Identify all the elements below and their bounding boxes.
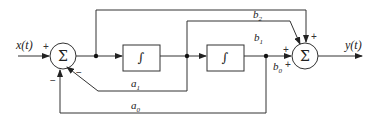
junction-node-1 (94, 54, 98, 58)
sum2-plus-sign-b0: + (285, 59, 291, 70)
sum1-plus-sign: + (43, 41, 49, 52)
sum1-minus-sign-a0: − (50, 75, 56, 86)
summer-1-sigma: Σ (58, 48, 68, 64)
input-label: x(t) (15, 38, 33, 52)
output-label: y(t) (344, 38, 362, 52)
sum2-plus-sign-b1: + (283, 44, 289, 55)
gain-a1-label: a1 (131, 77, 140, 92)
summer-2-sigma: Σ (300, 48, 310, 64)
b2-path (96, 10, 306, 56)
integrator-1-symbol: ∫ (138, 50, 145, 65)
sum2-plus-sign-b2: + (311, 31, 317, 42)
integrator-2-symbol: ∫ (222, 50, 229, 65)
sum1-minus-sign-a1: − (76, 67, 82, 78)
block-diagram: Σ Σ ∫ ∫ x(t) y(t) b2 b1 b0 a1 a0 + − − +… (0, 0, 373, 124)
junction-node-2 (185, 54, 189, 58)
junction-node-3 (264, 54, 268, 58)
gain-b1-label: b1 (254, 31, 263, 46)
a1-feedback-path (67, 56, 187, 91)
gain-b0-label: b0 (273, 60, 283, 75)
gain-a0-label: a0 (131, 99, 141, 114)
a0-feedback-path (60, 56, 266, 113)
